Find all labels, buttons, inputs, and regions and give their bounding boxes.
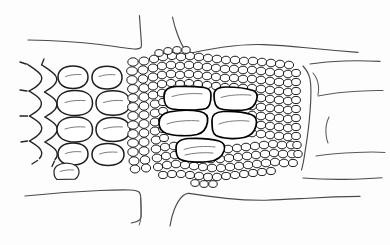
vessel-2	[214, 87, 257, 110]
cross-section-drawing	[0, 0, 390, 245]
vessel-4	[212, 111, 257, 138]
figure-root: Plant tissue cross-section line drawing …	[0, 0, 390, 245]
vessel-3	[159, 110, 208, 135]
vessel-5	[176, 138, 225, 162]
vessel-1	[164, 86, 211, 110]
